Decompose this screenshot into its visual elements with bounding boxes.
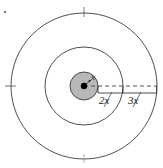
scan-speck-artifact: [4, 11, 6, 13]
outer-radius-label: 3x: [127, 94, 139, 106]
concentric-circles-figure: x 2x 3x: [0, 0, 163, 168]
middle-radius-label: 2x: [99, 94, 110, 106]
inner-radius-label: x: [90, 72, 95, 82]
concentric-circles-diagram: x 2x 3x: [0, 0, 163, 168]
